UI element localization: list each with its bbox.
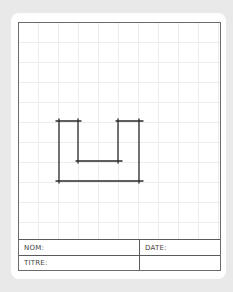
title-block-row-2: TITRE:: [19, 256, 220, 270]
date-label: DATE:: [145, 244, 167, 252]
title-label: TITRE:: [24, 259, 47, 267]
date-field: DATE:: [140, 240, 220, 255]
title-block: NOM: DATE: TITRE:: [18, 239, 221, 271]
title-field: TITRE:: [19, 256, 140, 270]
drawing-sheet-stage: NOM: DATE: TITRE:: [0, 0, 233, 292]
name-field: NOM:: [19, 240, 140, 255]
empty-field: [140, 256, 220, 270]
name-label: NOM:: [24, 244, 44, 252]
title-block-row-1: NOM: DATE:: [19, 240, 220, 256]
